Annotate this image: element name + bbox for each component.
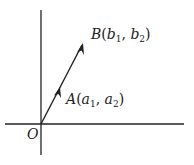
point-b-label: B(b1, b2) <box>91 27 151 44</box>
origin-label: O <box>27 127 38 141</box>
point-a-label: A(a1, a2) <box>66 92 124 109</box>
vector-ob <box>41 45 82 124</box>
